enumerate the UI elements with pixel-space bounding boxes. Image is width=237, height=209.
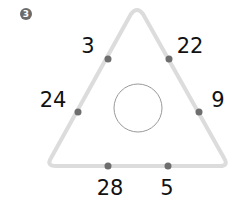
number-bottom-left: 28	[97, 178, 124, 199]
number-top-right: 22	[177, 36, 204, 57]
triangle-puzzle: 3 3 22 24 9 28 5	[0, 0, 237, 209]
number-bottom-right: 5	[160, 178, 173, 199]
dot-bottom-right	[165, 163, 172, 170]
dot-left	[75, 109, 82, 116]
dot-right	[196, 109, 203, 116]
dot-bottom-left	[105, 163, 112, 170]
center-answer-circle	[114, 84, 162, 132]
number-left: 24	[40, 90, 67, 111]
dot-top-left	[105, 56, 112, 63]
number-top-left: 3	[81, 36, 94, 57]
dot-top-right	[166, 56, 173, 63]
number-right: 9	[211, 90, 224, 111]
